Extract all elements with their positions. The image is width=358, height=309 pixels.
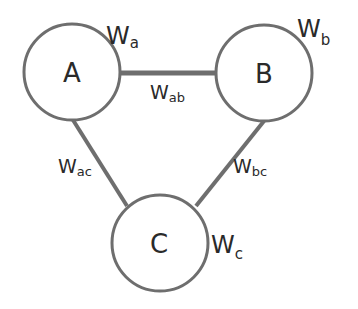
edge-b-c-weight: Wbc [233, 155, 267, 179]
node-b-weight-main: W [297, 15, 321, 43]
node-a-weight-sub: a [130, 34, 139, 52]
edge-a-c-weight-sub: ac [77, 164, 92, 179]
node-c-weight: Wc [211, 231, 243, 263]
node-b-label: B [255, 59, 273, 89]
edge-b-c-weight-sub: bc [252, 164, 267, 179]
node-a-weight: Wa [106, 22, 139, 52]
edge-a-c [73, 120, 127, 206]
edge-a-c-weight: Wac [58, 155, 92, 179]
edge-a-b-weight: Wab [150, 81, 185, 105]
edge-b-c-weight-main: W [233, 155, 252, 177]
node-c-weight-main: W [211, 231, 235, 259]
node-a-label: A [63, 58, 81, 88]
edge-a-b-weight-sub: ab [169, 90, 185, 105]
edge-a-b-weight-main: W [150, 81, 169, 103]
node-c: C [112, 195, 208, 291]
graph-diagram: A B C Wa Wb Wc Wab Wac Wbc [0, 0, 358, 309]
edge-a-c-weight-main: W [58, 155, 77, 177]
node-b-weight-sub: b [321, 31, 331, 49]
node-c-weight-sub: c [235, 245, 243, 263]
node-a-weight-main: W [106, 22, 130, 50]
node-c-label: C [150, 229, 168, 259]
